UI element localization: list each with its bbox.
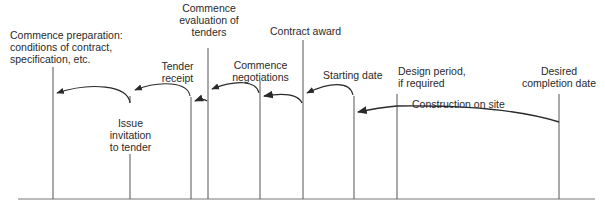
arrow-invitation-to-preparation	[57, 87, 130, 103]
label-contract-award: Contract award	[270, 25, 341, 37]
label-construction-on-site: Construction on site	[412, 98, 505, 110]
arrow-starting-to-award	[307, 85, 353, 95]
label-starting-date: Starting date	[323, 69, 383, 81]
arrow-evaluation-to-receipt	[195, 99, 207, 101]
label-commence-preparation: Commence preparation: conditions of cont…	[10, 29, 123, 65]
arrow-receipt-to-invitation	[135, 84, 190, 96]
label-design-period: Design period, if required	[398, 65, 466, 89]
label-issue-invitation: Issue invitation to tender	[108, 117, 153, 153]
label-commence-negotiations: Commence negotiations	[228, 59, 293, 83]
label-commence-evaluation: Commence evaluation of tenders	[172, 2, 246, 38]
label-tender-receipt: Tender receipt	[155, 60, 200, 84]
arrow-award-to-negotiations	[264, 94, 302, 103]
label-desired-completion: Desired completion date	[514, 65, 604, 89]
timeline-diagram: Commence preparation: conditions of cont…	[0, 0, 605, 209]
arrow-negotiations-to-evaluation	[212, 83, 259, 93]
